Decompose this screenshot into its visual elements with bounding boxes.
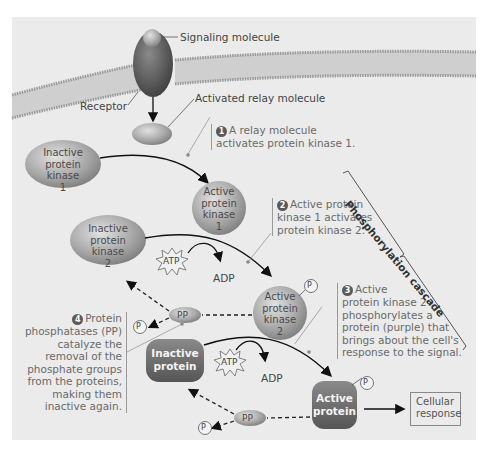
active-pk2-line-2: protein <box>262 303 298 314</box>
cellular-response-line-1: Cellular <box>416 396 454 407</box>
step-4-line-7: making them <box>52 388 122 400</box>
inactive-pk1-text: Inactive protein kinase 1 <box>30 147 96 193</box>
step-1-text: 1A relay molecule activates protein kina… <box>211 124 355 150</box>
pi-label-2: P <box>201 422 206 435</box>
phosphate-label-pk2: P <box>307 280 312 293</box>
step-1-line-1: A relay molecule <box>229 124 317 136</box>
step-3-number: 3 <box>342 285 353 296</box>
step-2-line-3: protein kinase 2. <box>277 224 365 236</box>
active-pk2-line-1: Active <box>265 291 296 302</box>
active-pk2-line-4: 2 <box>277 326 283 337</box>
step-3-line-3: phosphorylates a <box>342 309 433 321</box>
step-4-line-1: Protein <box>85 312 122 324</box>
inactive-pk1-line-2: protein kinase <box>45 159 81 182</box>
atp-label-1: ATP <box>163 255 179 268</box>
pi-label-1: P <box>136 321 141 334</box>
active-protein-text: Active protein <box>312 392 357 418</box>
inactive-pk2-line-3: 2 <box>105 258 111 269</box>
active-pk1-line-4: 1 <box>216 221 222 232</box>
step-4-number: 4 <box>72 314 83 325</box>
step-3-line-5: brings about the cell's <box>342 334 459 346</box>
active-pk1-line-1: Active <box>204 186 235 197</box>
signaling-molecule <box>143 29 161 47</box>
step-4-line-4: removal of the <box>45 350 122 362</box>
cellular-response-box: Cellular response <box>410 392 461 426</box>
inactive-pk2-line-2: protein kinase <box>90 235 126 258</box>
adp-label-2: ADP <box>261 372 283 385</box>
step-4-line-2: phosphatases (PP) <box>25 325 122 337</box>
active-pk2-text: Active protein kinase 2 <box>255 291 305 337</box>
step-3-text: 3Active protein kinase 2 phosphorylates … <box>337 283 462 359</box>
step-3-line-1: Active <box>355 283 387 295</box>
cellular-response-line-2: response <box>416 408 461 419</box>
phosphate-label-active-protein: P <box>363 377 368 390</box>
inactive-protein-line-2: protein <box>153 360 196 372</box>
pp-label-1: PP <box>177 309 188 322</box>
step-4-line-5: phosphate groups <box>27 363 122 375</box>
active-pk1-line-3: kinase <box>203 209 235 220</box>
step-4-line-3: catalyze the <box>58 338 122 350</box>
step-4-line-8: inactive again. <box>45 400 122 412</box>
receptor-label: Receptor <box>80 100 127 113</box>
pp-label-2: PP <box>242 412 253 425</box>
step-4-text: 4Protein phosphatases (PP) catalyze the … <box>10 312 127 413</box>
step-2-number: 2 <box>277 200 288 211</box>
activated-relay-label: Activated relay molecule <box>195 92 325 105</box>
inactive-pk1-line-1: Inactive <box>43 147 83 158</box>
inactive-pk2-text: Inactive protein kinase 2 <box>73 223 143 269</box>
atp-label-2: ATP <box>221 356 237 369</box>
step-3-line-2: protein kinase 2 <box>342 296 427 308</box>
signaling-molecule-label: Signaling molecule <box>180 31 280 44</box>
inactive-protein-text: Inactive protein <box>146 347 204 373</box>
active-pk1-text: Active protein kinase 1 <box>194 186 244 232</box>
step-4-line-6: from the proteins, <box>28 375 122 387</box>
active-pk1-line-2: protein <box>201 198 237 209</box>
step-3-line-4: protein (purple) that <box>342 321 449 333</box>
inactive-pk2-line-1: Inactive <box>88 223 128 234</box>
step-1-number: 1 <box>216 126 227 137</box>
active-protein-line-2: protein <box>313 405 356 417</box>
active-pk2-line-3: kinase <box>264 314 296 325</box>
inactive-protein-line-1: Inactive <box>151 347 198 359</box>
adp-label-1: ADP <box>213 272 235 285</box>
relay-molecule <box>132 123 172 145</box>
step-1-line-2: activates protein kinase 1. <box>216 137 355 149</box>
active-protein-line-1: Active <box>316 392 353 404</box>
step-3-line-6: response to the signal. <box>342 346 462 358</box>
inactive-pk1-line-3: 1 <box>60 182 66 193</box>
